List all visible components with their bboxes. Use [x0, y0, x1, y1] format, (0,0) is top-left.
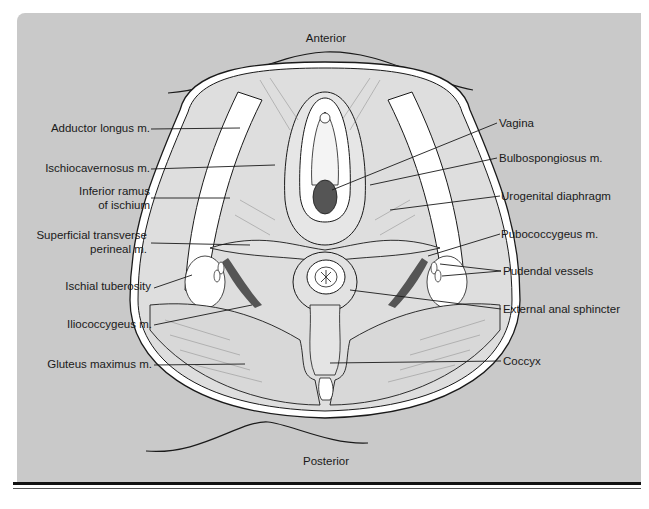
label-bulbospongiosus: Bulbospongiosus m.	[499, 152, 603, 165]
anterior-label: Anterior	[300, 32, 352, 45]
label-inferior-ramus-line1: Inferior ramus	[10, 185, 150, 198]
label-adductor-longus: Adductor longus m.	[10, 122, 150, 135]
label-iliococcygeus: Iliococcygeus m.	[10, 318, 152, 331]
label-external-anal-sphincter: External anal sphincter	[503, 303, 620, 316]
posterior-label: Posterior	[296, 455, 356, 468]
label-coccyx: Coccyx	[503, 355, 541, 368]
label-pubococcygeus: Pubococcygeus m.	[501, 228, 598, 241]
label-superficial-transverse-line1: Superficial transverse	[10, 229, 147, 242]
label-pudendal-vessels: Pudendal vessels	[503, 265, 593, 278]
label-inferior-ramus-line2: of ischium	[10, 199, 150, 212]
anococcygeal-body	[310, 305, 340, 375]
label-ischiocavernosus: Ischiocavernosus m.	[10, 162, 150, 175]
vaginal-orifice	[313, 180, 337, 214]
label-vagina: Vagina	[499, 117, 534, 130]
label-gluteus-maximus: Gluteus maximus m.	[10, 358, 152, 371]
label-superficial-transverse-line2: perineal m.	[10, 243, 147, 256]
figure-bottom-rule-thin	[13, 488, 641, 489]
label-ischial-tuberosity: Ischial tuberosity	[10, 280, 151, 293]
posterior-contour	[146, 422, 368, 452]
figure-bottom-rule	[13, 482, 641, 485]
urethral-orifice	[320, 113, 330, 123]
coccyx	[319, 378, 333, 400]
label-urogenital-diaphragm: Urogenital diaphragm	[501, 190, 611, 203]
